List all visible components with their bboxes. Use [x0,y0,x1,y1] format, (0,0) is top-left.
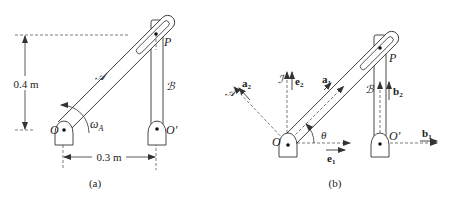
pivot-base-o-prime [148,121,166,145]
label-a2: a2 [242,77,252,91]
label-frame-a: 𝒜 [225,86,239,99]
label-o: O [272,135,281,149]
pivot-pin-o [286,143,290,147]
label-frame-i: ℐ [278,73,285,86]
label-frame-b: ℬ [365,83,375,96]
figure-b: O O′ P ℐ 𝒜 ℬ θ e1 e2 a1 a2 b2 b1 (b) [225,28,437,190]
label-b2: b2 [393,85,403,99]
label-b1: b1 [422,127,432,141]
caption-b: (b) [329,177,342,190]
label-p: P [163,35,172,49]
label-o: O [50,123,59,137]
label-e1: e1 [327,152,336,166]
pin-p [154,32,158,36]
pivot-pin-o-prime [155,127,159,131]
label-p: P [388,51,397,65]
caption-a: (a) [89,177,102,190]
label-a1: a1 [322,73,332,87]
width-dimension-label: 0.3 m [96,151,122,163]
label-bar-b: ℬ [166,80,176,93]
label-omega: ωA [90,117,103,133]
label-theta: θ [321,129,327,141]
label-o-prime: O′ [166,123,178,137]
label-e2: e2 [295,75,304,89]
height-dimension-label: 0.4 m [13,78,39,90]
mechanism-diagram: 0.4 m 0.3 m O O′ P 𝒜 ℬ ωA (a) [0,0,450,201]
label-o-prime: O′ [389,129,401,143]
pivot-pin-o-prime [378,142,382,146]
pivot-pin-o [62,128,66,132]
figure-a: 0.4 m 0.3 m O O′ P 𝒜 ℬ ωA (a) [8,12,178,190]
pin-p [378,46,382,50]
